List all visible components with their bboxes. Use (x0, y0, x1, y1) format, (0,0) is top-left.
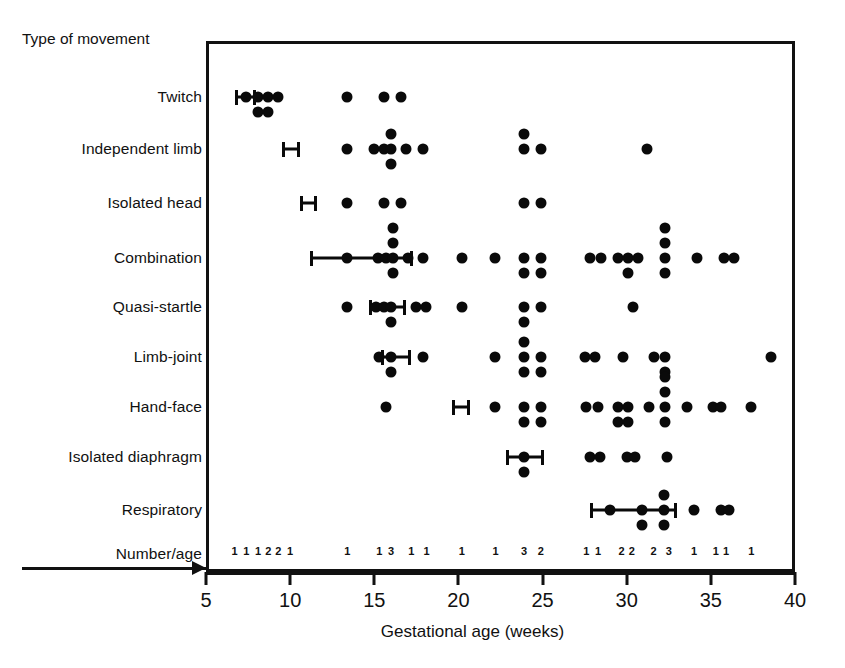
data-point (519, 367, 530, 378)
data-point (519, 417, 530, 428)
number-per-age-count: 1 (344, 545, 350, 557)
error-bar-6 (452, 406, 471, 409)
data-point (396, 92, 407, 103)
data-point (715, 402, 726, 413)
x-tick (457, 572, 460, 585)
x-tick-label: 35 (700, 589, 722, 612)
data-point (490, 352, 501, 363)
data-point (660, 402, 671, 413)
row-label-quasi-startle: Quasi-startle (113, 298, 202, 316)
numberage-leader-line (22, 567, 206, 570)
data-point (660, 352, 671, 363)
data-point (660, 238, 671, 249)
number-per-age-count: 3 (521, 545, 527, 557)
data-point (387, 238, 398, 249)
data-point (519, 467, 530, 478)
data-point (746, 402, 757, 413)
x-tick (709, 572, 712, 585)
data-point (519, 317, 530, 328)
x-axis-title: Gestational age (weeks) (0, 622, 845, 642)
data-point (456, 253, 467, 264)
data-point (630, 452, 641, 463)
data-point (374, 352, 385, 363)
data-point (535, 253, 546, 264)
x-axis-line (206, 572, 795, 575)
data-point (623, 402, 634, 413)
data-point (342, 144, 353, 155)
data-point (387, 268, 398, 279)
number-per-age-count: 2 (629, 545, 635, 557)
data-point (396, 198, 407, 209)
number-per-age-count: 2 (651, 545, 657, 557)
data-point (456, 302, 467, 313)
number-per-age-count: 1 (492, 545, 498, 557)
number-per-age-count: 1 (232, 545, 238, 557)
data-point (535, 352, 546, 363)
data-point (519, 402, 530, 413)
data-point (766, 352, 777, 363)
data-point (594, 452, 605, 463)
data-point (519, 144, 530, 155)
x-axis-title-text: Gestational age (weeks) (281, 622, 564, 641)
error-bar-1 (282, 148, 301, 151)
number-per-age-count: 1 (459, 545, 465, 557)
data-point (682, 402, 693, 413)
data-point (648, 352, 659, 363)
data-point (342, 253, 353, 264)
data-point (381, 402, 392, 413)
data-point (519, 452, 530, 463)
number-per-age-count: 1 (376, 545, 382, 557)
number-per-age-count: 1 (748, 545, 754, 557)
data-point (660, 387, 671, 398)
data-point (386, 352, 397, 363)
data-point (342, 198, 353, 209)
x-tick-label: 10 (279, 589, 301, 612)
number-per-age-count: 1 (423, 545, 429, 557)
row-label-independent-limb: Independent limb (81, 140, 202, 158)
number-per-age-count: 2 (538, 545, 544, 557)
row-label-limb-joint: Limb-joint (134, 348, 202, 366)
x-tick-label: 15 (363, 589, 385, 612)
number-per-age-count: 1 (243, 545, 249, 557)
row-label-hand-face: Hand-face (130, 398, 202, 416)
number-per-age-count: 2 (265, 545, 271, 557)
data-point (386, 129, 397, 140)
x-tick-label: 40 (784, 589, 806, 612)
row-label-combination: Combination (114, 249, 202, 267)
x-tick-label: 5 (200, 589, 211, 612)
x-tick (541, 572, 544, 585)
data-point (660, 223, 671, 234)
number-per-age-count: 3 (666, 545, 672, 557)
data-point (689, 505, 700, 516)
data-point (636, 520, 647, 531)
x-tick (289, 572, 292, 585)
data-point (386, 317, 397, 328)
data-point (643, 402, 654, 413)
x-tick-label: 25 (531, 589, 553, 612)
data-point (618, 352, 629, 363)
number-per-age-count: 1 (691, 545, 697, 557)
data-point (519, 129, 530, 140)
number-per-age-count: 1 (595, 545, 601, 557)
data-point (342, 302, 353, 313)
data-point (273, 92, 284, 103)
data-point (593, 402, 604, 413)
data-point (660, 372, 671, 383)
data-point (387, 223, 398, 234)
number-per-age-count: 1 (723, 545, 729, 557)
data-point (662, 452, 673, 463)
data-point (401, 144, 412, 155)
data-point (386, 367, 397, 378)
data-point (418, 144, 429, 155)
data-point (658, 520, 669, 531)
x-tick (794, 572, 797, 585)
data-point (628, 302, 639, 313)
data-point (535, 367, 546, 378)
data-point (387, 253, 398, 264)
data-point (490, 253, 501, 264)
data-point (581, 402, 592, 413)
number-per-age-count: 1 (287, 545, 293, 557)
row-label-isolated-diaphragm: Isolated diaphragm (68, 448, 202, 466)
number-per-age-count: 1 (255, 545, 261, 557)
data-point (589, 352, 600, 363)
